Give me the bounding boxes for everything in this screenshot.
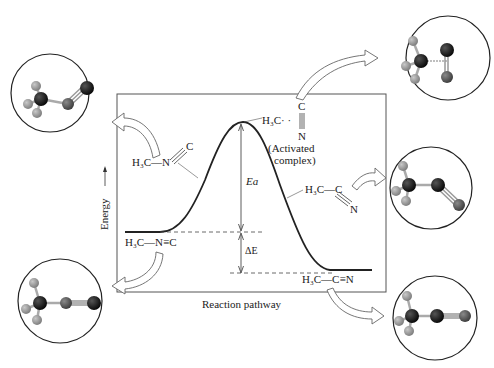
molecule-top-left	[11, 54, 94, 132]
delta-e-label: ΔE	[245, 245, 258, 256]
molecule-top-right	[401, 16, 490, 100]
arrow-to-bottom-right	[327, 288, 384, 324]
bent-reactant-label: H₃C—N	[132, 156, 170, 168]
ea-label: Ea	[245, 175, 259, 187]
activated-c-label: C	[298, 100, 305, 112]
energy-axis-label: Energy	[98, 198, 110, 230]
reactant-label: H₃C—N≡C	[125, 236, 177, 248]
molecule-bottom-left	[18, 259, 102, 343]
activated-n-label: N	[298, 130, 306, 142]
bent-product-pointer	[287, 190, 303, 198]
product-label: H₃C—C≡N	[302, 273, 354, 285]
activated-h3c-label: H₃C· ·	[262, 114, 291, 126]
arrow-to-bottom-left	[112, 252, 163, 294]
arrow-to-top-left	[112, 113, 160, 158]
arrow-to-middle-right	[352, 168, 386, 190]
arrow-to-top-right	[296, 50, 378, 100]
bent-reactant-pointer	[178, 163, 198, 178]
reaction-pathway-label: Reaction pathway	[202, 298, 282, 310]
svg-text:N: N	[350, 203, 358, 215]
bent-product-label: H₃C—C	[305, 183, 342, 195]
activated-pointer	[244, 118, 262, 122]
energy-profile-diagram: Ea ΔE Energy Reaction pathway H₃C—N≡C H₃…	[0, 0, 494, 368]
molecule-bottom-right	[393, 276, 477, 360]
molecule-middle-right	[390, 147, 472, 229]
svg-text:C: C	[186, 140, 193, 152]
activated-caption-2: complex)	[274, 154, 316, 167]
